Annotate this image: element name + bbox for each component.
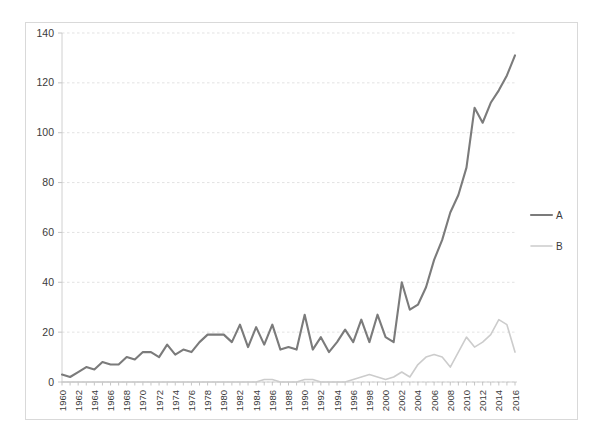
- x-tick-label: 1986: [267, 390, 278, 411]
- series-line-b: [62, 320, 515, 382]
- legend-label-a: A: [556, 210, 563, 221]
- x-tick-label: 1964: [89, 390, 100, 411]
- x-tick-label: 1960: [57, 390, 68, 411]
- x-tick-label: 1988: [283, 390, 294, 411]
- gridlines-group: [62, 33, 517, 382]
- x-axis-group: 1960196219641966196819701972197419761978…: [57, 382, 521, 411]
- x-tick-label: 1984: [251, 390, 262, 411]
- x-tick-label: 1972: [154, 390, 165, 411]
- x-tick-label: 1974: [170, 390, 181, 411]
- line-chart-svg: 020406080100120140 196019621964196619681…: [0, 0, 615, 442]
- series-group: [62, 55, 515, 382]
- legend-group: AB: [531, 210, 563, 252]
- y-tick-label: 0: [48, 376, 54, 388]
- x-tick-label: 1962: [73, 390, 84, 411]
- x-tick-label: 1982: [234, 390, 245, 411]
- x-tick-label: 2014: [493, 390, 504, 411]
- x-tick-label: 2000: [380, 390, 391, 411]
- legend-label-b: B: [556, 241, 563, 252]
- x-tick-label: 1968: [121, 390, 132, 411]
- x-tick-label: 1992: [315, 390, 326, 411]
- x-tick-label: 1996: [348, 390, 359, 411]
- x-tick-label: 1994: [332, 390, 343, 411]
- x-tick-label: 2004: [412, 390, 423, 411]
- x-tick-label: 2012: [477, 390, 488, 411]
- x-tick-label: 1970: [137, 390, 148, 411]
- series-line-a: [62, 55, 515, 377]
- y-tick-label: 60: [42, 226, 54, 238]
- y-tick-label: 140: [36, 27, 54, 39]
- y-tick-label: 100: [36, 126, 54, 138]
- x-tick-label: 2010: [461, 390, 472, 411]
- y-tick-label: 80: [42, 176, 54, 188]
- x-tick-label: 1976: [186, 390, 197, 411]
- y-axis-group: 020406080100120140: [36, 27, 62, 388]
- x-tick-label: 1966: [105, 390, 116, 411]
- y-tick-label: 20: [42, 326, 54, 338]
- x-tick-label: 1990: [299, 390, 310, 411]
- x-tick-label: 2008: [445, 390, 456, 411]
- x-tick-label: 1978: [202, 390, 213, 411]
- y-tick-label: 40: [42, 276, 54, 288]
- chart-container: 020406080100120140 196019621964196619681…: [0, 0, 615, 442]
- x-tick-label: 1998: [364, 390, 375, 411]
- y-tick-label: 120: [36, 76, 54, 88]
- x-tick-label: 2002: [396, 390, 407, 411]
- x-tick-label: 1980: [218, 390, 229, 411]
- x-tick-label: 2016: [510, 390, 521, 411]
- x-tick-label: 2006: [429, 390, 440, 411]
